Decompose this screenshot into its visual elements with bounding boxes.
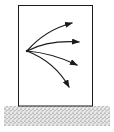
box [19, 6, 93, 107]
origin-point [26, 50, 28, 52]
ground [4, 106, 110, 126]
diagram-canvas [0, 0, 114, 132]
